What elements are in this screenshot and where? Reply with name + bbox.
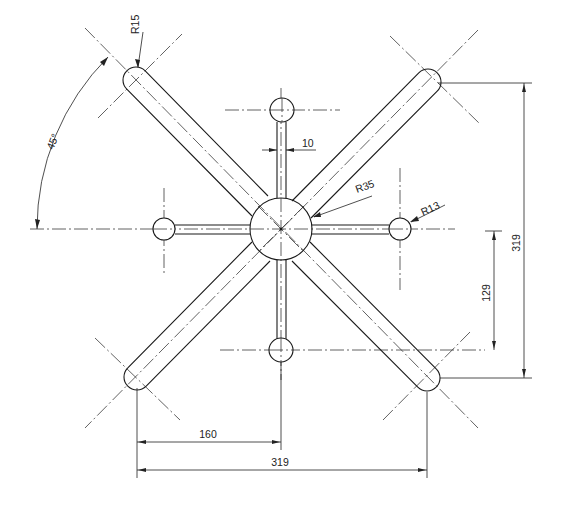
- dimension-r13: R13: [410, 199, 445, 222]
- vertical-129-label: 129: [480, 284, 492, 302]
- dimension-horizontal-160: 160: [137, 362, 281, 478]
- technical-drawing: 45° R15 10 R35 R13 319 129: [0, 0, 563, 508]
- spoke-width-label: 10: [302, 137, 314, 149]
- dimension-angle-45: 45°: [35, 57, 108, 229]
- horizontal-319-label: 319: [271, 456, 289, 468]
- hub-center-dot: [280, 228, 283, 231]
- dimension-r15: R15: [129, 15, 143, 68]
- arm-lower-left: [124, 242, 270, 390]
- r15-label: R15: [129, 15, 141, 34]
- angle-label: 45°: [44, 132, 61, 151]
- center-lines: [30, 28, 485, 428]
- dimension-vertical-319: 319: [438, 83, 532, 378]
- dimension-r35: R35: [313, 177, 376, 217]
- r35-label: R35: [354, 177, 376, 195]
- dimension-horizontal-319: 319: [137, 392, 427, 478]
- arm-upper-left: [123, 67, 268, 216]
- r13-label: R13: [419, 199, 442, 218]
- horizontal-160-label: 160: [199, 428, 217, 440]
- vertical-319-label: 319: [510, 234, 522, 252]
- arm-lower-right: [292, 242, 440, 391]
- dimension-vertical-129: 129: [480, 231, 502, 350]
- dimension-spoke-width: 10: [262, 137, 316, 152]
